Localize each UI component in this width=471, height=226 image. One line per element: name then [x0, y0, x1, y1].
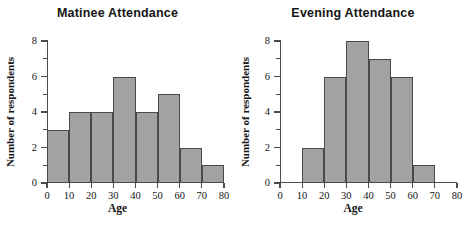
y-axis-tick-label: 4 — [265, 107, 270, 118]
x-axis-label: Age — [235, 202, 471, 214]
chart-title: Matinee Attendance — [0, 6, 235, 20]
x-axis-tick: 40 — [135, 183, 136, 189]
x-axis-tick-label: 30 — [108, 191, 119, 202]
histogram-bar — [47, 130, 69, 183]
histogram-bar — [391, 77, 413, 184]
y-axis-tick-label: 0 — [32, 178, 37, 189]
y-axis-tick-major: 4 — [274, 111, 281, 112]
x-axis-tick-label: 10 — [297, 191, 308, 202]
x-axis-tick-label: 0 — [44, 191, 49, 202]
x-axis-tick: 40 — [368, 183, 369, 189]
x-axis-label: Age — [0, 202, 235, 214]
x-axis-tick-label: 80 — [452, 191, 463, 202]
histogram-bar — [69, 112, 91, 183]
x-axis-tick: 60 — [412, 183, 413, 189]
x-axis-tick: 0 — [279, 183, 280, 189]
y-axis-tick-label: 0 — [265, 178, 270, 189]
x-axis-tick-label: 50 — [385, 191, 396, 202]
histogram-figure: Matinee Attendance Number of respondents… — [0, 0, 471, 226]
x-axis-tick: 0 — [46, 183, 47, 189]
x-axis-tick-label: 0 — [277, 191, 282, 202]
x-axis-tick-label: 40 — [130, 191, 141, 202]
y-axis-tick-minor — [276, 129, 281, 130]
x-axis-tick: 20 — [324, 183, 325, 189]
plot-area: 0246801020304050607080 — [280, 41, 457, 183]
histogram-bar — [113, 77, 135, 184]
x-axis-tick: 70 — [201, 183, 202, 189]
histogram-bar — [158, 94, 180, 183]
plot-area: 0246801020304050607080 — [47, 41, 224, 183]
chart-panel-matinee: Matinee Attendance Number of respondents… — [0, 0, 235, 226]
x-axis-tick-label: 70 — [430, 191, 441, 202]
y-axis-label-text: Number of respondents — [4, 57, 16, 167]
x-axis-tick-label: 20 — [86, 191, 97, 202]
y-axis-tick-label: 6 — [32, 71, 37, 82]
y-axis-label: Number of respondents — [2, 38, 18, 186]
x-axis-tick: 10 — [302, 183, 303, 189]
x-axis-tick-label: 80 — [219, 191, 230, 202]
x-axis-tick-label: 70 — [197, 191, 208, 202]
x-axis-tick: 70 — [434, 183, 435, 189]
chart-panel-evening: Evening Attendance Number of respondents… — [235, 0, 471, 226]
x-axis-tick: 30 — [346, 183, 347, 189]
y-axis-tick-major: 8 — [274, 40, 281, 41]
x-axis-tick-label: 30 — [341, 191, 352, 202]
histogram-bar — [369, 59, 391, 183]
y-axis-tick-major: 6 — [274, 76, 281, 77]
y-axis-tick-minor — [276, 58, 281, 59]
histogram-bar — [302, 148, 324, 184]
y-axis-tick-major: 8 — [41, 40, 48, 41]
histogram-bar — [91, 112, 113, 183]
x-axis-tick: 50 — [390, 183, 391, 189]
x-axis-tick: 50 — [157, 183, 158, 189]
y-axis-tick-label: 8 — [265, 36, 270, 47]
x-axis-tick-label: 60 — [174, 191, 185, 202]
x-axis-tick-label: 50 — [152, 191, 163, 202]
x-axis-tick-label: 20 — [319, 191, 330, 202]
x-axis-tick-label: 40 — [363, 191, 374, 202]
y-axis-tick-label: 2 — [32, 142, 37, 153]
histogram-bar — [346, 41, 368, 183]
y-axis-label-text: Number of respondents — [239, 57, 251, 167]
chart-title: Evening Attendance — [235, 6, 471, 20]
x-axis-tick-label: 60 — [407, 191, 418, 202]
y-axis-tick-label: 6 — [265, 71, 270, 82]
y-axis-tick-label: 2 — [265, 142, 270, 153]
histogram-bar — [324, 77, 346, 184]
x-axis-tick: 60 — [179, 183, 180, 189]
y-axis-tick-major: 4 — [41, 111, 48, 112]
y-axis-tick-minor — [276, 94, 281, 95]
x-axis-tick: 10 — [69, 183, 70, 189]
y-axis-tick-major: 6 — [41, 76, 48, 77]
y-axis-tick-major: 2 — [274, 147, 281, 148]
y-axis-tick-label: 4 — [32, 107, 37, 118]
y-axis-tick-label: 8 — [32, 36, 37, 47]
y-axis-tick-minor — [43, 94, 48, 95]
histogram-bar — [413, 165, 435, 183]
histogram-bar — [136, 112, 158, 183]
y-axis-tick-minor — [43, 58, 48, 59]
x-axis-tick: 30 — [113, 183, 114, 189]
histogram-bar — [202, 165, 224, 183]
x-axis-tick: 20 — [91, 183, 92, 189]
y-axis-label: Number of respondents — [237, 38, 253, 186]
histogram-bar — [180, 148, 202, 184]
x-axis-tick: 80 — [223, 183, 224, 189]
x-axis-tick-label: 10 — [64, 191, 75, 202]
y-axis-tick-minor — [276, 165, 281, 166]
x-axis-tick: 80 — [456, 183, 457, 189]
